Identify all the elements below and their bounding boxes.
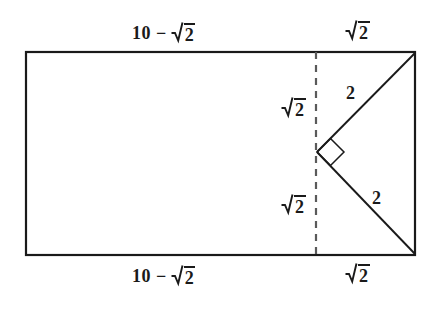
label-dash-lower-radical: 2 — [281, 194, 306, 216]
label-dash-lower-radicand: 2 — [294, 195, 306, 216]
label-top-left-lead: 10 — [132, 22, 151, 42]
label-top-segment-right: 2 — [345, 20, 370, 42]
label-top-right-radical: 2 — [345, 20, 370, 42]
radical-sign-icon — [345, 262, 358, 282]
right-angle-marker — [317, 139, 344, 166]
label-bottom-segment-left: 10−2 — [132, 265, 195, 287]
label-leg-upper-value: 2 — [346, 83, 355, 103]
geometry-figure: 10−2 2 10−2 2 2 2 2 2 — [0, 0, 441, 309]
label-bottom-segment-right: 2 — [345, 263, 370, 285]
label-leg-lower-value: 2 — [372, 188, 381, 208]
label-bot-left-lead: 10 — [132, 265, 151, 285]
triangle-leg-upper — [317, 53, 415, 152]
label-bot-left-radicand: 2 — [184, 266, 196, 287]
label-top-left-radical: 2 — [171, 22, 196, 44]
label-top-right-radicand: 2 — [358, 21, 370, 42]
label-bot-left-radical: 2 — [171, 265, 196, 287]
label-bot-right-radical: 2 — [345, 263, 370, 285]
label-bot-left-minus: − — [151, 265, 171, 285]
radical-sign-icon — [345, 19, 358, 39]
label-dashed-upper: 2 — [281, 97, 306, 119]
radical-sign-icon — [281, 193, 294, 213]
label-top-left-radicand: 2 — [184, 23, 196, 44]
triangle-leg-lower — [317, 152, 415, 254]
label-bot-right-radicand: 2 — [358, 264, 370, 285]
label-dash-upper-radical: 2 — [281, 97, 306, 119]
label-leg-upper: 2 — [346, 84, 355, 102]
radical-sign-icon — [171, 21, 184, 41]
diagram-canvas — [0, 0, 441, 309]
label-dashed-lower: 2 — [281, 194, 306, 216]
radical-sign-icon — [281, 96, 294, 116]
label-top-left-minus: − — [151, 22, 171, 42]
label-leg-lower: 2 — [372, 189, 381, 207]
label-dash-upper-radicand: 2 — [294, 98, 306, 119]
radical-sign-icon — [171, 264, 184, 284]
outer-rectangle — [26, 52, 415, 255]
label-top-segment-left: 10−2 — [132, 22, 195, 44]
